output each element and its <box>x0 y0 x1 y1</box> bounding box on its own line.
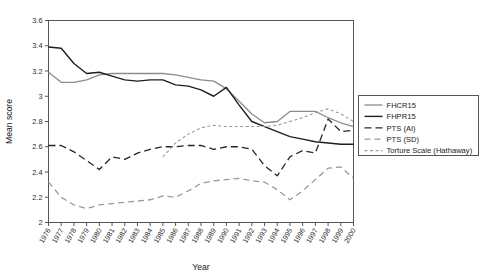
y-axis-tick-label: 3.2 <box>32 67 42 76</box>
x-axis-tick-label: 1990 <box>215 227 231 245</box>
x-axis-tick-label: 1986 <box>164 227 180 245</box>
x-axis-tick-label: 1985 <box>151 227 167 245</box>
x-axis-tick-label: 1983 <box>126 227 142 245</box>
x-axis-tick-label: 1995 <box>278 227 294 245</box>
x-axis-tick-label: 1981 <box>101 227 117 245</box>
y-axis-tick-label: 2 <box>38 218 42 227</box>
x-axis-tick-label: 1979 <box>75 227 91 245</box>
y-axis-tick-label: 2.4 <box>32 168 42 177</box>
x-axis-tick-label: 2000 <box>342 227 358 245</box>
x-axis-tick-label: 1980 <box>88 227 104 245</box>
x-axis-tick-label: 1989 <box>202 227 218 245</box>
x-axis-tick-label: 1996 <box>291 227 307 245</box>
x-axis-tick-label: 1982 <box>113 227 129 245</box>
line-chart: 22.22.42.62.833.23.43.619761977197819791… <box>0 0 485 279</box>
legend-label-4: PTS (SD) <box>387 135 420 144</box>
x-axis-tick-label: 1984 <box>139 227 155 245</box>
legend-label-2: FHPR15 <box>387 112 416 121</box>
y-axis-tick-label: 2.2 <box>32 193 42 202</box>
x-axis-tick-label: 1987 <box>177 227 193 245</box>
legend-label-5: Torture Scale (Hathaway) <box>387 146 473 155</box>
x-axis-tick-label: 1998 <box>317 227 333 245</box>
y-axis-title: Mean score <box>4 99 14 144</box>
x-axis-tick-label: 1977 <box>50 227 66 245</box>
x-axis-tick-label: 1994 <box>266 227 282 245</box>
legend-label-1: FHCR15 <box>387 101 417 110</box>
y-axis-tick-label: 2.8 <box>32 117 42 126</box>
legend-label-3: PTS (AI) <box>387 124 417 133</box>
x-axis-tick-label: 1988 <box>190 227 206 245</box>
x-axis-tick-label: 1997 <box>304 227 320 245</box>
chart-container: 22.22.42.62.833.23.43.619761977197819791… <box>0 0 485 279</box>
plot-area-frame <box>49 21 354 223</box>
x-axis-tick-label: 1999 <box>329 227 345 245</box>
y-axis-tick-label: 3.6 <box>32 16 42 25</box>
x-axis-title: Year <box>192 262 210 272</box>
x-axis-tick-label: 1992 <box>240 227 256 245</box>
x-axis-tick-label: 1976 <box>37 227 53 245</box>
x-axis-tick-label: 1991 <box>228 227 244 245</box>
y-axis-tick-label: 2.6 <box>32 142 42 151</box>
x-axis-tick-label: 1993 <box>253 227 269 245</box>
y-axis-tick-label: 3.4 <box>32 41 42 50</box>
x-axis-tick-label: 1978 <box>62 227 78 245</box>
y-axis-tick-label: 3 <box>38 92 42 101</box>
